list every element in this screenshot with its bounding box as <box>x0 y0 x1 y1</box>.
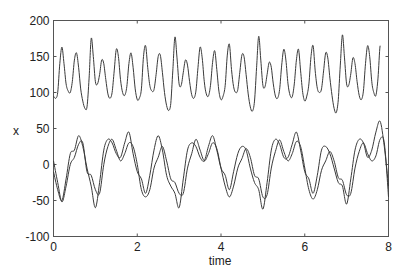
x-tick-label: 4 <box>218 240 225 254</box>
x-tick-label: 8 <box>385 240 392 254</box>
plot-area <box>54 21 389 237</box>
series-line-lower-b <box>54 137 389 202</box>
x-tick-label: 2 <box>134 240 141 254</box>
series-line-upper <box>54 35 381 113</box>
x-axis-label: time <box>209 254 232 268</box>
y-tick-label: 100 <box>29 86 49 100</box>
y-tick-label: -50 <box>32 194 50 208</box>
y-tick-labels: -100-50050100150200 <box>25 14 49 244</box>
series-group <box>54 35 389 209</box>
axes-frame <box>54 21 389 237</box>
line-chart: -100-50050100150200 02468 time x <box>0 0 402 274</box>
x-tick-label: 0 <box>50 240 57 254</box>
y-tick-label: -100 <box>25 230 49 244</box>
y-tick-label: 150 <box>29 50 49 64</box>
y-tick-label: 50 <box>36 122 50 136</box>
y-tick-label: 200 <box>29 14 49 28</box>
y-tick-label: 0 <box>43 158 50 172</box>
x-tick-labels: 02468 <box>50 240 392 254</box>
x-tick-label: 6 <box>301 240 308 254</box>
y-axis-label: x <box>13 124 19 138</box>
axis-ticks <box>54 21 389 237</box>
